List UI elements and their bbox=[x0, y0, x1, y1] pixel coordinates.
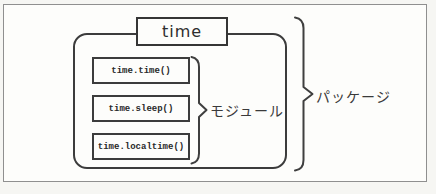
module-brace-label: モジュール bbox=[210, 100, 284, 120]
package-brace-label: パッケージ bbox=[316, 86, 391, 106]
package-title-box: time bbox=[136, 17, 228, 46]
package-title: time bbox=[162, 22, 202, 41]
module-function-box: time.sleep() bbox=[92, 95, 190, 122]
module-function-label: time.time() bbox=[111, 66, 170, 76]
scanned-figure: time time.time() time.sleep() time.local… bbox=[0, 0, 436, 194]
module-function-label: time.sleep() bbox=[109, 104, 174, 114]
module-function-box: time.localtime() bbox=[92, 133, 190, 160]
module-function-box: time.time() bbox=[92, 57, 190, 84]
module-function-label: time.localtime() bbox=[98, 142, 184, 152]
